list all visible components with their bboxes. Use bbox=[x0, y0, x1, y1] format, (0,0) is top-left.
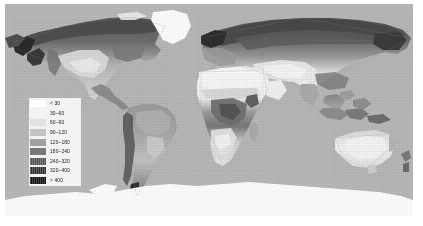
legend-row: 240–320 bbox=[29, 157, 81, 167]
region-australia bbox=[331, 128, 401, 178]
legend-swatch-8 bbox=[30, 177, 46, 184]
world-map-figure: < 30 30–60 60–90 90–120 120–180 180–240 … bbox=[0, 0, 423, 226]
legend-label-3: 90–120 bbox=[50, 130, 67, 136]
legend-label-2: 60–90 bbox=[50, 120, 64, 126]
legend-swatch-2 bbox=[30, 119, 46, 126]
legend-swatch-7 bbox=[30, 167, 46, 174]
legend-label-0: < 30 bbox=[50, 101, 60, 107]
legend-swatch-6 bbox=[30, 158, 46, 165]
region-africa bbox=[193, 64, 269, 172]
legend-label-1: 30–60 bbox=[50, 111, 64, 117]
legend-label-8: > 400 bbox=[50, 178, 63, 184]
legend-swatch-3 bbox=[30, 129, 46, 136]
legend-row: > 400 bbox=[29, 176, 81, 186]
legend-row: 60–90 bbox=[29, 118, 81, 128]
legend-swatch-4 bbox=[30, 139, 46, 146]
class-legend: < 30 30–60 60–90 90–120 120–180 180–240 … bbox=[29, 98, 81, 186]
legend-row: 320–400 bbox=[29, 166, 81, 176]
legend-swatch-5 bbox=[30, 148, 46, 155]
legend-swatch-0 bbox=[30, 100, 46, 107]
legend-label-5: 180–240 bbox=[50, 149, 70, 155]
legend-row: 180–240 bbox=[29, 147, 81, 157]
legend-row: < 30 bbox=[29, 99, 81, 109]
legend-label-6: 240–320 bbox=[50, 159, 70, 165]
legend-swatch-1 bbox=[30, 110, 46, 117]
legend-row: 30–60 bbox=[29, 109, 81, 119]
legend-row: 90–120 bbox=[29, 128, 81, 138]
legend-label-4: 120–180 bbox=[50, 139, 70, 145]
legend-row: 120–180 bbox=[29, 137, 81, 147]
legend-label-7: 320–400 bbox=[50, 168, 70, 174]
